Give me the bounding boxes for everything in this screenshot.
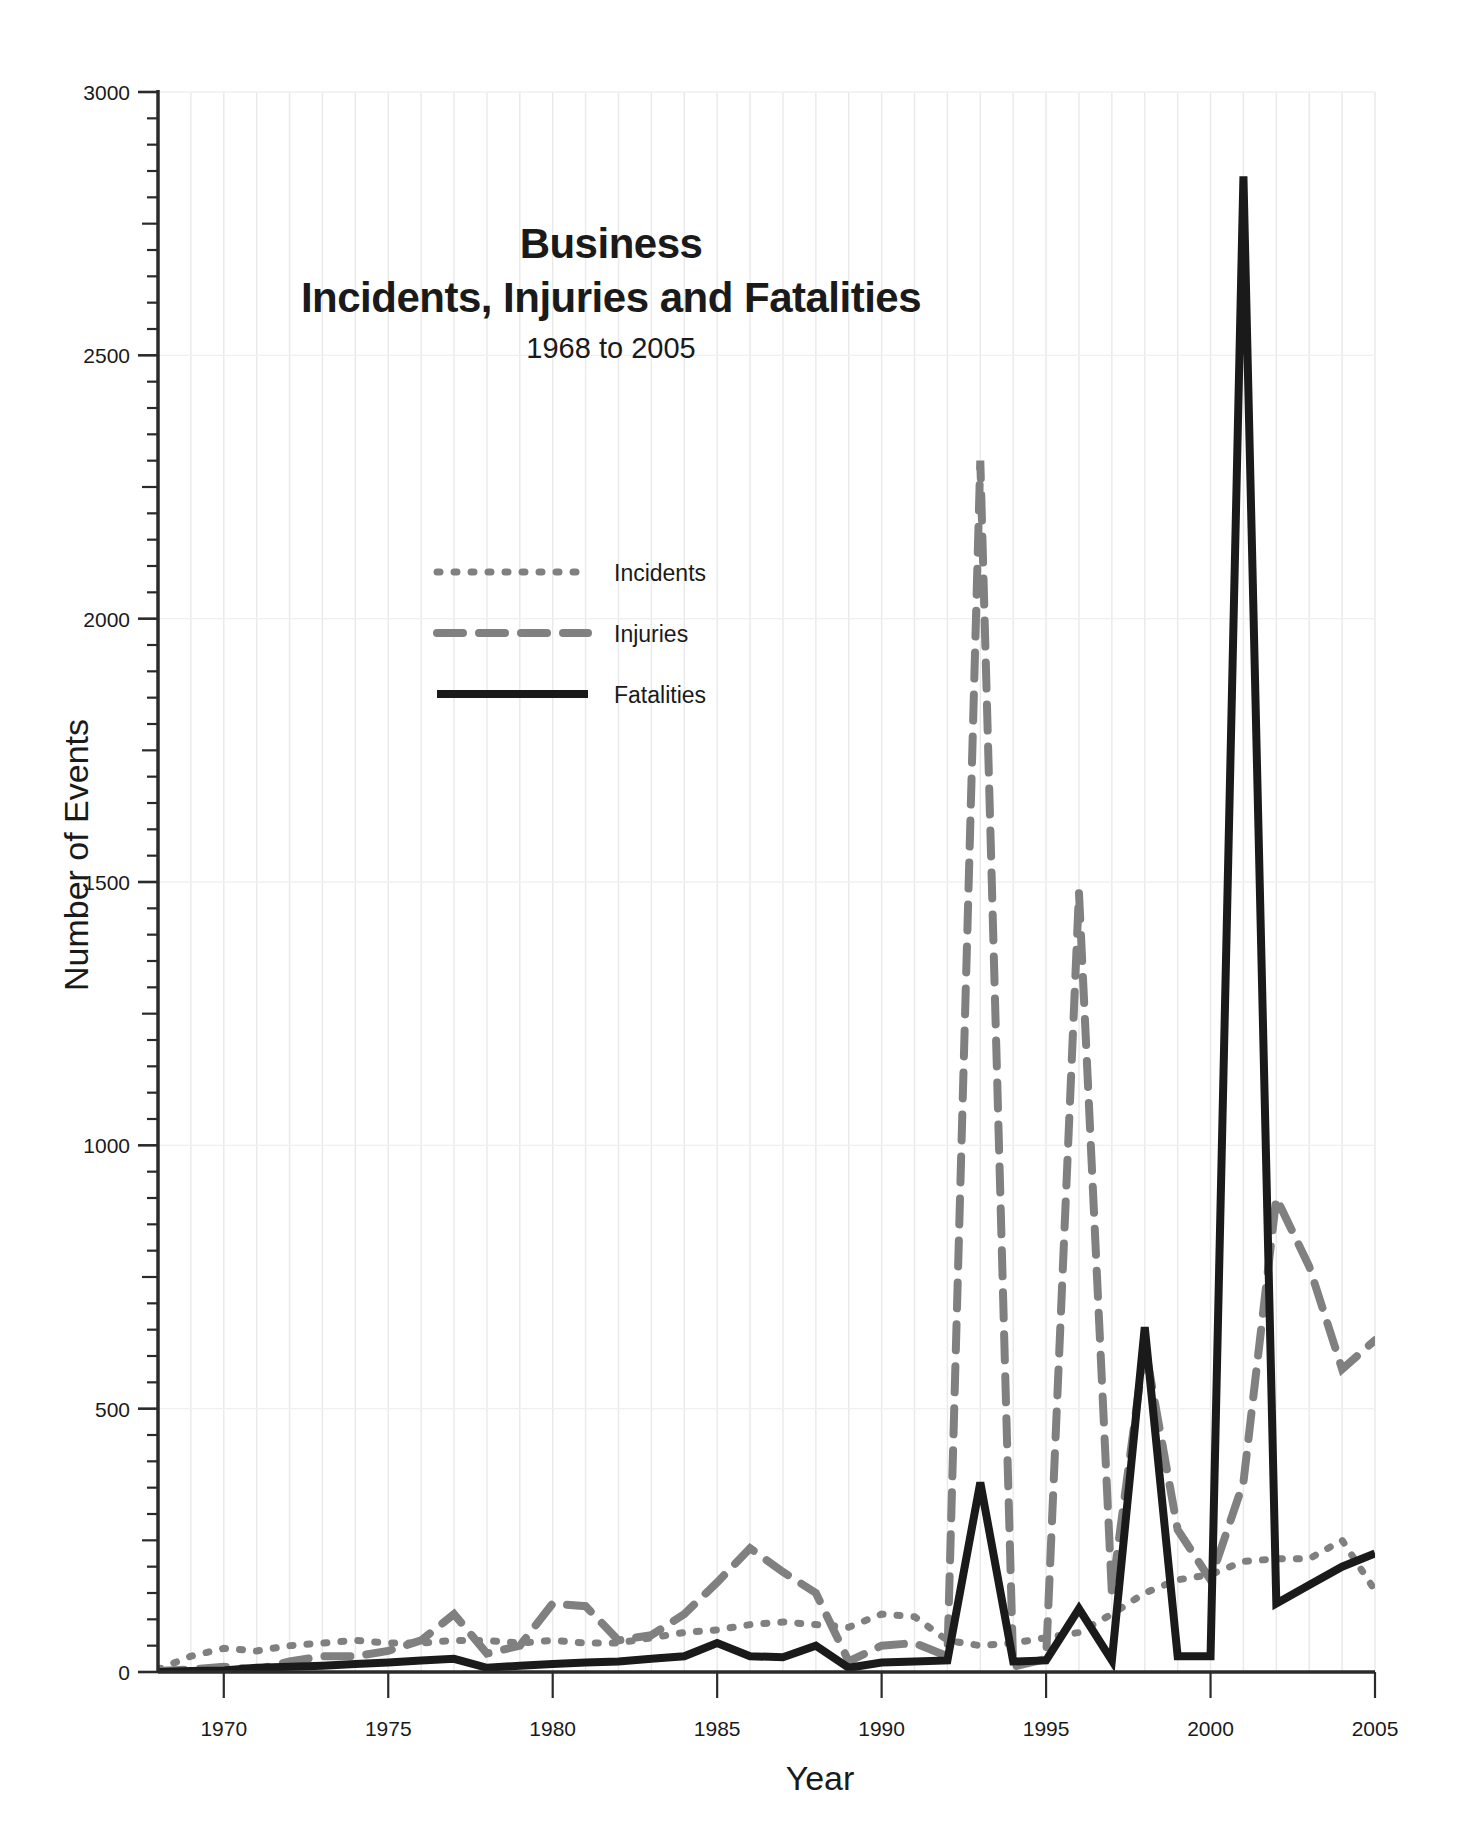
x-axis-title: Year	[786, 1759, 855, 1797]
chart-subtitle: 1968 to 2005	[526, 332, 695, 364]
y-tick-label: 3000	[83, 81, 130, 104]
y-axis-title: Number of Events	[57, 719, 95, 991]
y-tick-label: 2000	[83, 608, 130, 631]
x-tick-label: 1975	[365, 1717, 412, 1740]
x-tick-label: 1980	[529, 1717, 576, 1740]
y-tick-label: 0	[118, 1661, 130, 1684]
y-tick-label: 2500	[83, 344, 130, 367]
line-chart: 050010001500200025003000 197019751980198…	[0, 0, 1457, 1848]
x-tick-label: 2000	[1187, 1717, 1234, 1740]
x-tick-label: 1995	[1023, 1717, 1070, 1740]
chart-title-line1: Business	[520, 220, 703, 267]
y-tick-label: 500	[95, 1398, 130, 1421]
x-tick-label: 1970	[200, 1717, 247, 1740]
legend-label-fatalities: Fatalities	[614, 682, 706, 708]
x-tick-label: 2005	[1352, 1717, 1399, 1740]
legend-label-injuries: Injuries	[614, 621, 688, 647]
chart-page: 050010001500200025003000 197019751980198…	[0, 0, 1457, 1848]
x-tick-label: 1990	[858, 1717, 905, 1740]
legend-label-incidents: Incidents	[614, 560, 706, 586]
chart-title-line2: Incidents, Injuries and Fatalities	[301, 274, 921, 321]
x-tick-label: 1985	[694, 1717, 741, 1740]
y-tick-label: 1000	[83, 1134, 130, 1157]
